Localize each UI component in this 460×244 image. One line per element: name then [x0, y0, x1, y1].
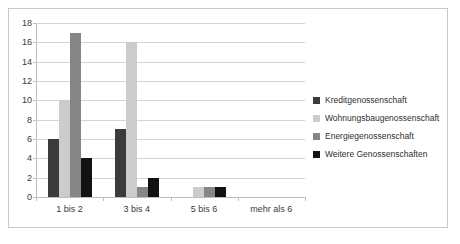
- bar: [70, 33, 81, 197]
- category-axis-tick: [103, 197, 104, 201]
- legend-label: Kreditgenossenschaft: [325, 95, 407, 105]
- value-axis-tick-label: 8: [10, 116, 32, 125]
- value-axis-tick-labels: 024681012141618: [9, 23, 32, 197]
- category-axis-tick: [171, 197, 172, 201]
- bar: [81, 158, 92, 197]
- bar: [204, 187, 215, 197]
- bar-group: [249, 23, 293, 197]
- value-axis-tick-label: 10: [10, 96, 32, 105]
- value-axis-tick-label: 18: [10, 19, 32, 28]
- legend-swatch-icon: [313, 97, 320, 104]
- value-axis-tick-mark: [33, 178, 36, 179]
- category-axis-label: 5 bis 6: [171, 204, 238, 214]
- value-axis-tick-label: 16: [10, 38, 32, 47]
- value-axis-tick-label: 4: [10, 154, 32, 163]
- legend-item[interactable]: Energiegenossenschaft: [313, 127, 445, 145]
- bar: [193, 187, 204, 197]
- legend-label: Wohnungsbaugenossenschaft: [325, 113, 439, 123]
- bar-group: [115, 23, 159, 197]
- value-axis-tick-mark: [33, 120, 36, 121]
- category-axis-label: mehr als 6: [238, 204, 305, 214]
- legend-swatch-icon: [313, 151, 320, 158]
- chart-frame: 024681012141618 1 bis 23 bis 45 bis 6meh…: [8, 8, 448, 228]
- legend-label: Weitere Genossenschaften: [325, 149, 427, 159]
- legend-item[interactable]: Kreditgenossenschaft: [313, 91, 445, 109]
- legend-item[interactable]: Weitere Genossenschaften: [313, 145, 445, 163]
- legend-swatch-icon: [313, 115, 320, 122]
- chart-legend: KreditgenossenschaftWohnungsbaugenossens…: [313, 91, 445, 163]
- bar: [148, 178, 159, 197]
- legend-swatch-icon: [313, 133, 320, 140]
- plot-area: [36, 23, 305, 197]
- value-axis-tick-label: 12: [10, 77, 32, 86]
- value-axis-tick-mark: [33, 139, 36, 140]
- bar: [115, 129, 126, 197]
- bar-group: [182, 23, 226, 197]
- bar: [48, 139, 59, 197]
- category-axis-tick: [238, 197, 239, 201]
- legend-label: Energiegenossenschaft: [325, 131, 414, 141]
- category-axis-label: 3 bis 4: [103, 204, 170, 214]
- value-axis-tick-mark: [33, 81, 36, 82]
- category-axis-tick: [305, 197, 306, 201]
- bar: [137, 187, 148, 197]
- value-axis-tick-label: 6: [10, 135, 32, 144]
- value-axis-tick-label: 0: [10, 193, 32, 202]
- bar: [59, 100, 70, 197]
- legend-item[interactable]: Wohnungsbaugenossenschaft: [313, 109, 445, 127]
- value-axis-tick-mark: [33, 197, 36, 198]
- category-axis-tick: [36, 197, 37, 201]
- value-axis-tick-mark: [33, 23, 36, 24]
- bar: [126, 42, 137, 197]
- value-axis-tick-mark: [33, 42, 36, 43]
- value-axis-tick-mark: [33, 100, 36, 101]
- value-axis-tick-mark: [33, 62, 36, 63]
- category-axis-label: 1 bis 2: [36, 204, 103, 214]
- bar: [215, 187, 226, 197]
- value-axis-tick-label: 2: [10, 174, 32, 183]
- value-axis-tick-mark: [33, 158, 36, 159]
- bar-group: [48, 23, 92, 197]
- value-axis-tick-label: 14: [10, 58, 32, 67]
